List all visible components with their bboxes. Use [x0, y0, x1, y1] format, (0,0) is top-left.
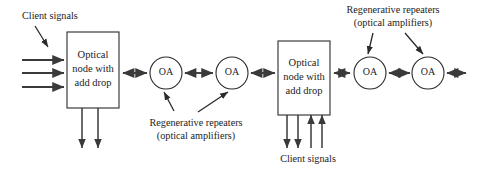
repeaters-center-line-2: (optical amplifiers) [133, 129, 259, 142]
right-optical-node-label: Optical node with add drop [278, 56, 330, 98]
left-optical-node-label: Optical node with add drop [67, 48, 119, 90]
client-signals-pointer-left [35, 26, 48, 47]
optical-network-diagram: Optical node with add drop Optical node … [0, 0, 479, 178]
repeaters-label-center: Regenerative repeaters (optical amplifie… [133, 116, 259, 142]
oa-label-4: OA [412, 66, 444, 77]
repeater-pointer-oa1 [164, 92, 174, 111]
right-node-drop-arrows [287, 115, 298, 148]
left-node-line-1: Optical [67, 48, 119, 62]
left-node-line-3: add drop [67, 76, 119, 90]
right-node-line-2: node with [278, 70, 330, 84]
repeaters-label-top-right: Regenerative repeaters (optical amplifie… [330, 3, 456, 29]
repeater-pointer-oa2 [198, 92, 228, 112]
oa-label-3: OA [354, 66, 386, 77]
repeater-pointer-oa4 [405, 33, 423, 54]
client-signals-label-left: Client signals [22, 10, 78, 21]
repeater-pointer-oa3 [368, 33, 373, 54]
left-client-input-arrows [22, 60, 64, 87]
repeaters-center-line-1: Regenerative repeaters [133, 116, 259, 129]
right-node-line-1: Optical [278, 56, 330, 70]
repeaters-top-right-line-1: Regenerative repeaters [330, 3, 456, 16]
oa-label-2: OA [216, 66, 248, 77]
oa-label-1: OA [150, 66, 182, 77]
left-node-line-2: node with [67, 62, 119, 76]
left-node-drop-arrows [82, 108, 98, 148]
right-node-line-3: add drop [278, 84, 330, 98]
client-signals-label-right: Client signals [268, 153, 348, 164]
right-node-add-arrows [311, 115, 322, 148]
repeaters-top-right-line-2: (optical amplifiers) [330, 16, 456, 29]
